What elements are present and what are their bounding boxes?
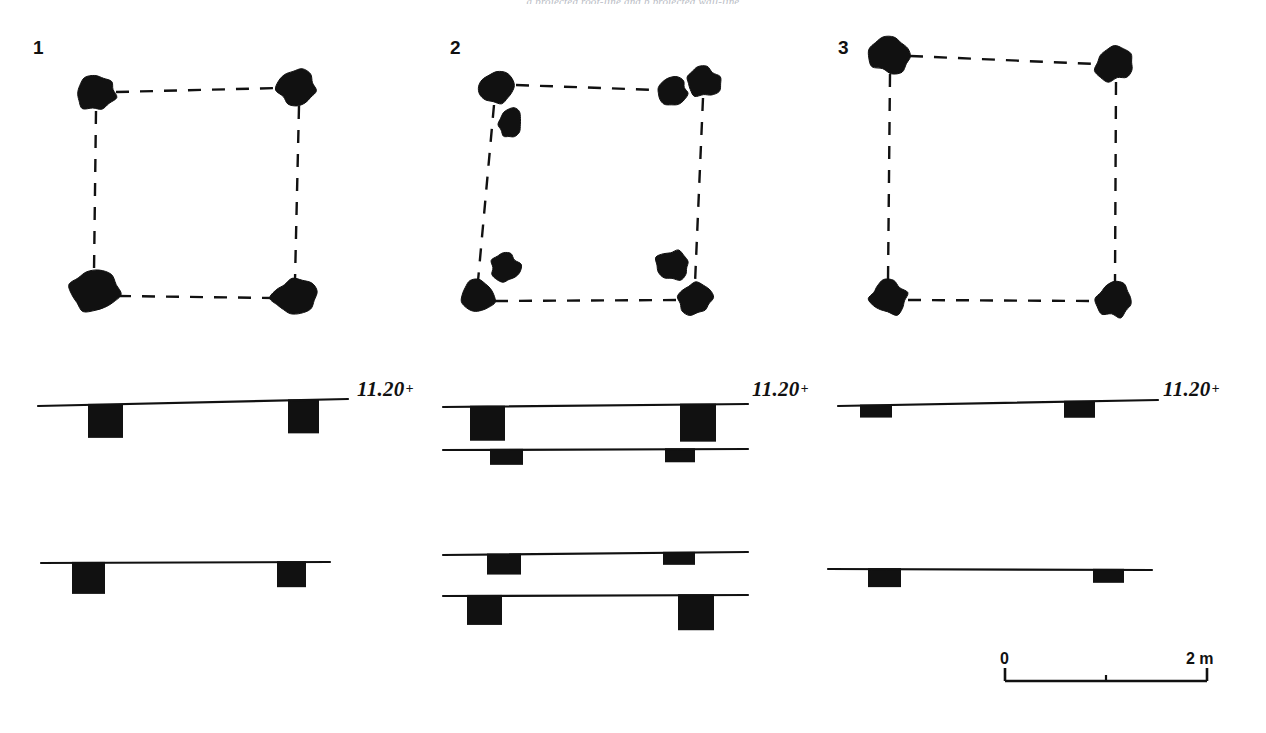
plan-link-right [295,106,299,280]
scale-bar-start-label: 0 [1000,651,1009,667]
plan-link-top [516,85,657,90]
section-lower-a-cut-left [72,562,105,594]
section-upper-a-ground-line [838,400,1158,406]
plan-posthole-nw [868,36,910,74]
panel-3-section-upper-a [838,400,1158,418]
panel-2-level-label: 11.20+ [752,379,809,400]
level-plus-sign: + [801,381,809,396]
level-value: 11.20 [1163,377,1211,401]
level-value: 11.20 [357,377,405,401]
section-lower-b-ground-line [443,595,748,596]
plan-posthole-nw-main [478,71,514,104]
panel-1 [38,69,348,594]
panel-3-number: 3 [838,38,849,57]
panel-3 [828,36,1158,587]
plan-link-top [910,56,1095,64]
section-lower-a-cut-left [868,568,901,587]
panel-1-section-upper-a [38,399,348,438]
level-plus-sign: + [1212,381,1220,396]
section-lower-b-cut-right [678,594,714,630]
plan-posthole-ne [1094,46,1132,83]
plan-posthole-ne-outer [687,66,721,97]
plan-posthole-ne-inner [658,77,688,105]
section-upper-a-cut-left [88,404,123,438]
section-upper-a-cut-right [288,399,319,433]
plan-posthole-se [1095,281,1131,318]
section-lower-a-cut-right [277,561,306,587]
section-upper-b-cut-left [490,449,523,465]
plan-posthole-sw-lower [461,279,495,311]
plan-link-top [116,88,279,92]
section-upper-a-cut-right [680,404,716,442]
plan-link-bottom [118,296,274,298]
panel-2 [443,66,748,631]
section-lower-b-cut-left [467,595,502,625]
level-plus-sign: + [406,381,414,396]
section-upper-b-ground-line [443,449,748,450]
panel-3-level-label: 11.20+ [1163,379,1220,400]
section-upper-a-cut-left [470,406,505,441]
plan-posthole-ne [275,69,316,106]
section-upper-a-cut-right [1064,401,1095,418]
section-lower-a-ground-line [41,562,330,563]
panel-1-section-lower-a [41,561,330,594]
panel-1-level-label: 11.20+ [357,379,414,400]
section-upper-b-cut-right [665,448,695,462]
panel-3-section-lower-a [828,568,1152,587]
panel-3-plan-postholes [868,36,1132,318]
plan-posthole-se-upper [655,250,688,280]
plan-posthole-nw-extra [498,108,521,137]
panel-2-number: 2 [450,38,461,57]
section-lower-a-ground-line [443,552,748,555]
plan-link-left [478,105,494,281]
section-lower-a-ground-line [828,569,1152,570]
plan-link-bottom [908,300,1096,301]
panel-2-plan-postholes [461,66,721,316]
figure-root: a projected roof-line and b projected wa… [0,0,1266,733]
plan-link-bottom [495,300,678,301]
plan-link-left [94,111,96,272]
panel-1-plan-links [94,88,299,298]
plan-link-right [1115,82,1116,283]
panel-2-section-lower-a [443,552,748,575]
panel-2-section-upper-b [443,448,748,465]
panel-3-plan-links [888,56,1116,301]
plan-posthole-se [270,278,317,314]
scale-bar-end-label: 2 m [1186,651,1214,667]
plan-link-right [695,98,703,283]
plan-posthole-sw [69,270,122,312]
figure-canvas [0,0,1266,733]
section-lower-a-cut-left [487,554,521,575]
plan-link-left [888,74,890,281]
plan-posthole-sw [868,279,908,315]
plan-posthole-sw-upper [491,252,522,282]
panel-2-section-lower-b [443,594,748,630]
plan-posthole-nw [78,75,117,109]
panel-1-number: 1 [33,38,44,57]
panel-1-plan-postholes [69,69,318,314]
plan-posthole-se-lower [677,282,713,316]
level-value: 11.20 [752,377,800,401]
panel-2-section-upper-a [443,404,748,442]
